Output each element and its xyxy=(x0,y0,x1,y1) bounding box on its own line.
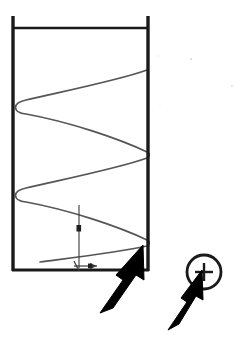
scan-speckle xyxy=(157,55,158,56)
dimension-label-a-mark xyxy=(77,225,82,232)
scan-speckle xyxy=(159,104,160,105)
figure-root: a e + Helical coil inside cylindrical ve… xyxy=(0,0,238,343)
scan-speckle xyxy=(190,58,192,60)
scan-speckle xyxy=(231,85,233,87)
diagram-canvas xyxy=(0,0,238,343)
dimension-label-e-mark xyxy=(88,264,92,269)
